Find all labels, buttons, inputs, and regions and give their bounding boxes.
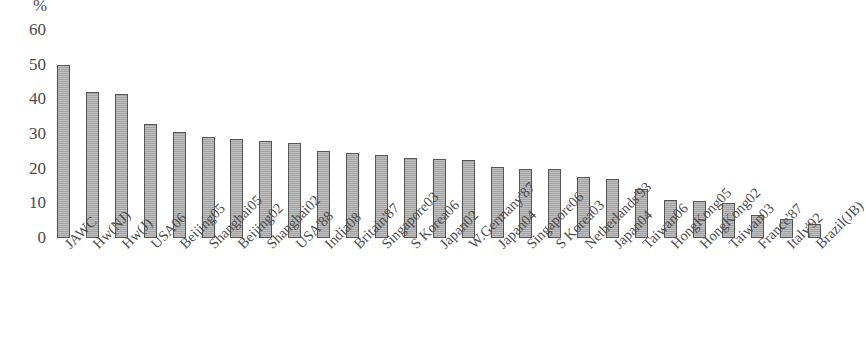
bar [57, 65, 70, 238]
y-tick-40: 40 [12, 90, 46, 107]
y-tick-10: 10 [12, 194, 46, 211]
x-axis-tick-labels: JAWCHw(NJ)Hw(J)USA06Beijing05Shanghai05B… [52, 241, 825, 355]
y-tick-60: 60 [12, 21, 46, 38]
y-tick-0: 0 [12, 229, 46, 246]
cropped-title [0, 0, 825, 8]
y-tick-50: 50 [12, 56, 46, 73]
y-tick-30: 30 [12, 125, 46, 142]
y-axis-unit-label: % [33, 0, 47, 16]
y-axis-tick-labels: 6050403020100 [0, 30, 46, 238]
y-tick-20: 20 [12, 160, 46, 177]
